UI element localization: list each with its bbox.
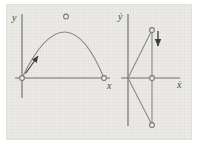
hodograph-y-axis-label: ẏ [118,12,122,22]
final-velocity-vector [128,78,152,125]
trajectory-x-axis-label: x [107,81,111,91]
landing-point-marker [102,76,107,81]
figure-drawing [0,0,198,148]
launch-point-marker [20,76,25,81]
initial-velocity-vector [128,30,152,78]
trajectory-y-axis-label: y [12,13,16,23]
hodograph-x-axis-label: ẋ [177,80,181,90]
figure-container: y x ẏ ẋ [0,0,198,148]
apex-point-marker [64,14,69,19]
trajectory-plot [15,14,110,98]
hodograph-plot [121,14,180,127]
initial-velocity-arrow [26,56,39,74]
initial-velocity-point-marker [150,28,155,33]
apex-velocity-point-marker [150,76,155,81]
trajectory-curve [22,32,104,78]
final-velocity-point-marker [150,123,155,128]
